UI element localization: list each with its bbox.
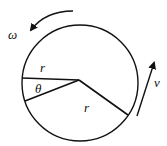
omega-label: ω	[8, 28, 17, 41]
rotating-circle-diagram	[0, 0, 167, 146]
radius-label-lower: r	[84, 101, 89, 114]
velocity-arrow	[137, 63, 154, 116]
radius-label-top: r	[40, 61, 45, 74]
radius-horizontal	[22, 78, 79, 80]
radius-angled	[25, 80, 79, 101]
velocity-label: v	[154, 76, 160, 89]
theta-label: θ	[35, 82, 41, 95]
